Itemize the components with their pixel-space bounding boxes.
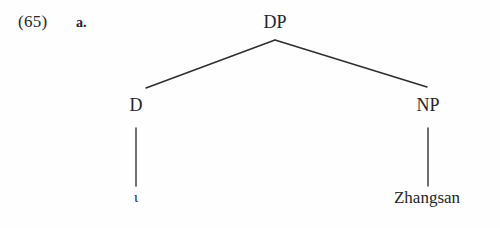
tree-node-np: NP [416, 96, 439, 114]
branch-dp-to-d [146, 40, 275, 88]
branch-dp-to-np [275, 40, 427, 87]
tree-terminal-iota: ι [134, 190, 138, 205]
tree-node-d: D [130, 96, 143, 114]
tree-terminal-zhangsan: Zhangsan [394, 189, 460, 206]
syntax-tree-figure: (65) a. DP D NP ι Zhangsan [0, 0, 500, 228]
tree-node-dp: DP [263, 13, 286, 31]
